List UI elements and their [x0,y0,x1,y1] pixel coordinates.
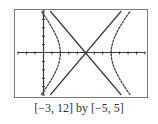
window-caption: [−3, 12] by [−5, 5] [0,101,158,116]
